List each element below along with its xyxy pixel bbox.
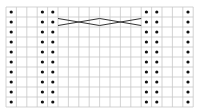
purl-dot	[186, 40, 189, 43]
purl-dot	[145, 30, 148, 33]
purl-dot	[51, 70, 54, 73]
purl-dot	[41, 10, 44, 13]
purl-dot	[10, 80, 13, 83]
purl-dot	[10, 40, 13, 43]
purl-dot	[51, 100, 54, 103]
purl-dot	[41, 20, 44, 23]
purl-dot	[41, 40, 44, 43]
purl-dot	[155, 60, 158, 63]
purl-dot	[186, 20, 189, 23]
purl-dot	[145, 70, 148, 73]
purl-dot	[51, 90, 54, 93]
chart-grid	[6, 7, 193, 107]
knitting-chart	[0, 0, 199, 111]
purl-dot	[186, 70, 189, 73]
purl-dot	[145, 10, 148, 13]
purl-dot	[10, 60, 13, 63]
purl-dot	[41, 80, 44, 83]
purl-dot	[10, 70, 13, 73]
purl-dot	[41, 90, 44, 93]
purl-dot	[51, 60, 54, 63]
purl-dot	[41, 70, 44, 73]
purl-dot	[186, 100, 189, 103]
purl-dot	[155, 70, 158, 73]
purl-dot	[51, 30, 54, 33]
purl-dot	[145, 80, 148, 83]
purl-dot	[10, 90, 13, 93]
purl-dot	[10, 10, 13, 13]
purl-dot	[51, 20, 54, 23]
purl-dot	[51, 80, 54, 83]
purl-dot	[145, 50, 148, 53]
purl-dot	[145, 60, 148, 63]
purl-dot	[155, 10, 158, 13]
purl-dot	[186, 80, 189, 83]
purl-dot	[41, 50, 44, 53]
purl-dot	[155, 30, 158, 33]
purl-dot	[155, 50, 158, 53]
purl-dot	[10, 20, 13, 23]
purl-dot	[10, 30, 13, 33]
purl-dot	[186, 50, 189, 53]
purl-dot	[186, 30, 189, 33]
purl-dot	[51, 40, 54, 43]
purl-dot	[155, 90, 158, 93]
purl-dot	[186, 90, 189, 93]
purl-dot	[145, 90, 148, 93]
purl-dot	[41, 100, 44, 103]
purl-dot	[186, 10, 189, 13]
purl-dot	[155, 20, 158, 23]
purl-dot	[155, 40, 158, 43]
purl-dot	[145, 40, 148, 43]
purl-dot	[186, 60, 189, 63]
purl-dot	[155, 80, 158, 83]
purl-dot	[145, 20, 148, 23]
purl-dot	[41, 30, 44, 33]
purl-dot	[145, 100, 148, 103]
purl-dot	[51, 10, 54, 13]
purl-dot	[41, 60, 44, 63]
purl-dot	[10, 50, 13, 53]
purl-dot	[51, 50, 54, 53]
purl-dot	[10, 100, 13, 103]
purl-dot	[155, 100, 158, 103]
